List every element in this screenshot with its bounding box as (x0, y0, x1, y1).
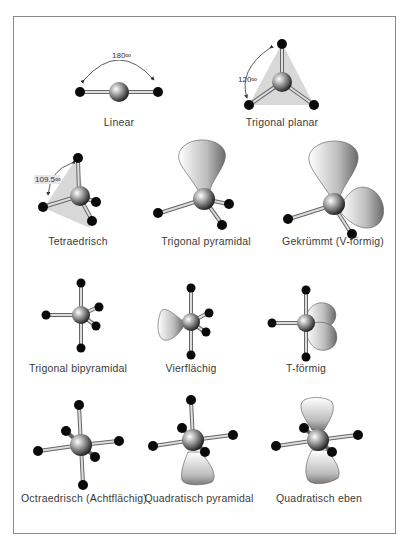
ligand-atom (92, 322, 101, 331)
ligand-atom (277, 39, 287, 49)
molecule-trigonal-planar: 120∞ (238, 39, 319, 110)
ligand-atom (91, 197, 101, 207)
ligand-atom (153, 208, 163, 218)
lone-pair-lobe (179, 140, 226, 190)
central-atom (272, 72, 292, 92)
ligand-atom (77, 279, 86, 288)
molecular-geometry-diagram: 180∞ 120∞ 109.5∞ (0, 0, 411, 549)
ligand-atom (87, 216, 97, 226)
lone-pair-lobe (158, 309, 184, 340)
label-bent: Gekrümmt (V-förmig) (282, 235, 384, 247)
label-seesaw: Vierflächig (165, 362, 216, 374)
ligand-atom (177, 423, 187, 433)
ligand-atom (61, 426, 71, 436)
ligand-atom (299, 423, 309, 433)
lone-pair-lobe (340, 187, 384, 228)
ligand-atom (153, 87, 163, 97)
ligand-atom (200, 447, 210, 457)
central-atom (297, 314, 315, 332)
molecule-t-shaped (268, 286, 337, 362)
angle-label: 120∞ (238, 75, 257, 84)
lone-pair-lobe (309, 141, 358, 196)
ligand-atom (309, 100, 319, 110)
ligand-atom (90, 452, 100, 462)
molecule-trigonal-bipyramidal (42, 279, 104, 353)
label-tetrahedral: Tetraedrisch (48, 235, 108, 247)
angle-arc (84, 60, 154, 80)
ligand-atom (302, 286, 311, 295)
ligand-atom (187, 351, 196, 360)
ligand-atom (353, 430, 363, 440)
angle-label: 180∞ (112, 51, 131, 60)
ligand-atom (327, 447, 337, 457)
ligand-atom (42, 311, 51, 320)
molecule-square-planar (271, 398, 363, 484)
molecule-tetrahedral: 109.5∞ (34, 153, 101, 228)
lone-pair-lobe (181, 452, 214, 485)
label-octahedral: Octraedrisch (Achtflächig) (21, 492, 147, 504)
ligand-atom (95, 303, 104, 312)
label-trigonal-bipyramidal: Trigonal bipyramidal (29, 362, 127, 374)
label-t-shaped: T-förmig (286, 362, 326, 374)
ligand-atom (186, 395, 196, 405)
label-trigonal-planar: Trigonal planar (246, 116, 319, 128)
ligand-atom (114, 436, 124, 446)
molecule-bent (283, 141, 384, 239)
ligand-atom (75, 87, 85, 97)
ligand-atom (244, 100, 254, 110)
ligand-atom (302, 353, 311, 362)
molecule-seesaw (158, 284, 214, 360)
ligand-atom (268, 319, 277, 328)
label-square-pyramidal: Quadratisch pyramidal (144, 492, 253, 504)
ligand-atom (74, 400, 84, 410)
ligand-atom (205, 309, 214, 318)
molecule-octahedral (33, 400, 124, 490)
central-atom (182, 429, 204, 451)
molecule-square-pyramidal (148, 395, 238, 485)
ligand-atom (78, 480, 88, 490)
label-trigonal-pyramidal: Trigonal pyramidal (161, 235, 251, 247)
central-atom (70, 186, 90, 206)
ligand-atom (224, 199, 234, 209)
central-atom (72, 306, 90, 324)
molecule-linear: 180∞ (75, 51, 163, 102)
label-linear: Linear (104, 116, 134, 128)
central-atom (70, 434, 92, 456)
ligand-atom (77, 344, 86, 353)
ligand-atom (38, 202, 48, 212)
ligand-atom (283, 214, 293, 224)
angle-label: 109.5∞ (35, 175, 61, 184)
central-atom (323, 193, 345, 215)
ligand-atom (217, 220, 227, 230)
ligand-atom (73, 153, 83, 163)
ligand-atom (33, 446, 43, 456)
central-atom (109, 82, 129, 102)
ligand-atom (271, 441, 281, 451)
ligand-atom (187, 284, 196, 293)
label-square-planar: Quadratisch eben (276, 492, 362, 504)
molecule-trigonal-pyramidal (153, 140, 234, 230)
ligand-atom (202, 328, 211, 337)
ligand-atom (148, 441, 158, 451)
central-atom (182, 313, 200, 331)
central-atom (307, 429, 329, 451)
central-atom (193, 188, 215, 210)
ligand-atom (228, 430, 238, 440)
